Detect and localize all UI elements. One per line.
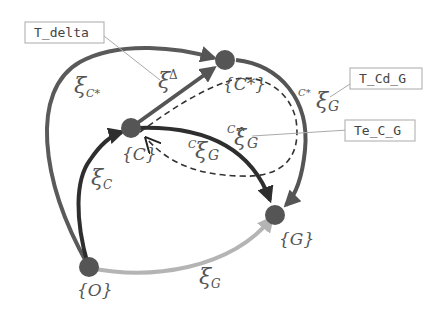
callout-line-T-delta (104, 36, 160, 80)
callout-line-T-Cd-G (330, 84, 350, 97)
svg-text:ξ̂: ξ̂ (234, 125, 248, 150)
svg-text:G: G (211, 277, 221, 291)
svg-text:G: G (208, 147, 219, 163)
svg-text:Te_C_G: Te_C_G (354, 123, 401, 138)
node-C (121, 118, 141, 138)
node-O (79, 257, 99, 277)
node-label-O: {O} (77, 280, 113, 300)
label-xi-G: ξ G (199, 264, 221, 291)
callout-Te-C-G: Te_C_G (345, 120, 415, 141)
svg-text:T_Cd_G: T_Cd_G (359, 71, 406, 86)
svg-text:Δ: Δ (169, 68, 178, 82)
node-label-G: {G} (279, 229, 314, 249)
callout-T-Cd-G: T_Cd_G (350, 68, 422, 89)
label-xi-C: ξ C (91, 165, 112, 192)
svg-text:ξ: ξ (195, 138, 209, 163)
frame-diagram: {O} {C} {C*} {G} ξ C* ξ Δ ξ C ξ G C ξ G … (0, 0, 445, 311)
label-xi-Cstar: ξ C* (74, 73, 100, 100)
edge-xi-G (90, 218, 272, 273)
svg-text:C*: C* (86, 87, 100, 100)
edge-xi-C (78, 132, 122, 265)
svg-text:T_delta: T_delta (34, 25, 89, 40)
label-Cstar-xi-G: C* ξ G (298, 87, 339, 114)
label-C-xihat-G: C ξ̂ G (227, 123, 258, 151)
node-label-C: {C} (122, 144, 157, 164)
svg-text:G: G (247, 135, 258, 151)
callout-T-delta: T_delta (25, 22, 104, 43)
svg-text:C*: C* (298, 87, 311, 98)
svg-text:G: G (328, 98, 339, 114)
svg-text:C: C (103, 178, 112, 192)
node-G (265, 205, 285, 225)
callout-line-Te-C-G (252, 130, 348, 136)
node-label-Cstar: {C*} (223, 74, 266, 94)
label-xi-delta: ξ Δ (158, 68, 178, 93)
node-Cstar (215, 50, 235, 70)
